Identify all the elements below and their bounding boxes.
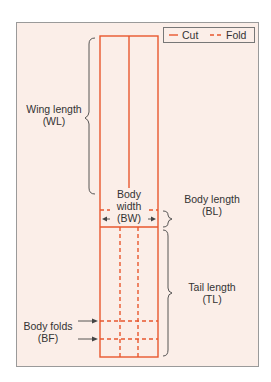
- body-length-label: Body length(BL): [172, 193, 252, 217]
- wing-length-label: Wing length(WL): [22, 103, 86, 127]
- body-folds-label: Body folds(BF): [18, 320, 78, 344]
- tail-length-label: Tail length(TL): [172, 281, 252, 305]
- wing-length-brace: [85, 38, 95, 194]
- legend: Cut Fold: [163, 27, 255, 43]
- body-length-brace: [163, 211, 172, 227]
- legend-cut-label: Cut: [182, 29, 198, 41]
- body-width-label: Bodywidth(BW): [110, 188, 148, 224]
- legend-fold-label: Fold: [226, 29, 246, 41]
- tail-length-brace: [163, 230, 172, 356]
